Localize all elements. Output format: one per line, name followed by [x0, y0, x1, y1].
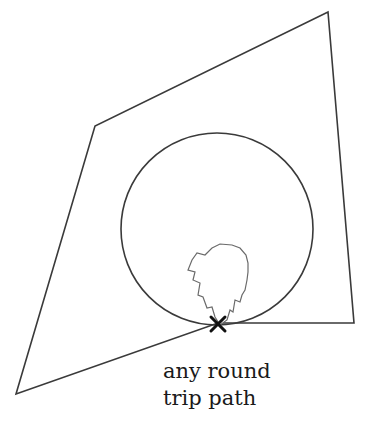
caption-line-2: trip path: [163, 385, 271, 412]
flame-icon: [188, 244, 248, 325]
caption-label: any round trip path: [163, 358, 271, 412]
caption-line-1: any round: [163, 358, 271, 385]
outer-quadrilateral-path: [16, 12, 354, 394]
